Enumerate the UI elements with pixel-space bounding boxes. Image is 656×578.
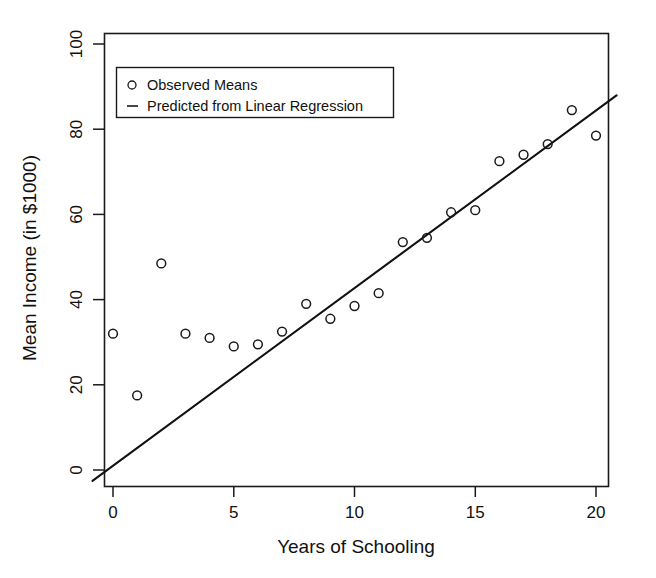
x-tick-label-20: 20 (587, 503, 606, 522)
data-point (229, 342, 238, 351)
y-axis-title: Mean Income (in $1000) (19, 155, 40, 361)
y-tick-label-60: 60 (67, 205, 86, 224)
y-tick-label-100: 100 (67, 30, 86, 58)
x-axis-title: Years of Schooling (277, 536, 435, 557)
y-tick-label-0: 0 (67, 465, 86, 474)
data-point (109, 329, 118, 338)
data-point (350, 302, 359, 311)
scatter-plot: 0 5 10 15 20 Years of Schooling 0 20 40 … (0, 0, 656, 578)
data-point (157, 259, 166, 268)
data-point (326, 314, 335, 323)
data-point (471, 206, 480, 215)
y-tick-label-20: 20 (67, 375, 86, 394)
x-tick-label-10: 10 (345, 503, 364, 522)
legend-label-observed: Observed Means (147, 77, 257, 93)
data-point (519, 150, 528, 159)
chart-legend: Observed Means Predicted from Linear Reg… (117, 68, 394, 118)
legend-label-predicted: Predicted from Linear Regression (147, 98, 363, 114)
chart-figure: 0 5 10 15 20 Years of Schooling 0 20 40 … (0, 0, 656, 578)
data-point (278, 327, 287, 336)
data-point (254, 340, 263, 349)
x-axis-ticks (113, 486, 596, 497)
regression-line (92, 95, 616, 480)
x-axis-tick-labels: 0 5 10 15 20 (108, 503, 605, 522)
data-point (205, 334, 214, 343)
y-tick-label-40: 40 (67, 290, 86, 309)
data-point (495, 157, 504, 166)
series-layer (92, 95, 616, 480)
data-point (567, 106, 576, 115)
y-axis-tick-labels: 0 20 40 60 80 100 (67, 30, 86, 475)
x-tick-label-15: 15 (466, 503, 485, 522)
data-point (592, 131, 601, 140)
data-point (447, 208, 456, 217)
data-point (181, 329, 190, 338)
data-point (398, 238, 407, 247)
data-point (374, 289, 383, 298)
data-point (133, 391, 142, 400)
x-tick-label-0: 0 (108, 503, 117, 522)
x-tick-label-5: 5 (229, 503, 238, 522)
data-point (302, 299, 311, 308)
y-tick-label-80: 80 (67, 120, 86, 139)
y-axis-ticks (93, 44, 104, 470)
